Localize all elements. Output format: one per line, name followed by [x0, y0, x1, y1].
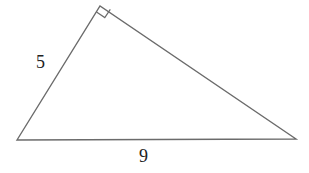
leg-length-label: 5	[36, 52, 45, 72]
triangle-shape	[17, 6, 296, 140]
base-length-label: 9	[139, 146, 148, 166]
triangle-diagram: 5 9	[0, 0, 309, 173]
right-angle-marker	[97, 9, 111, 17]
